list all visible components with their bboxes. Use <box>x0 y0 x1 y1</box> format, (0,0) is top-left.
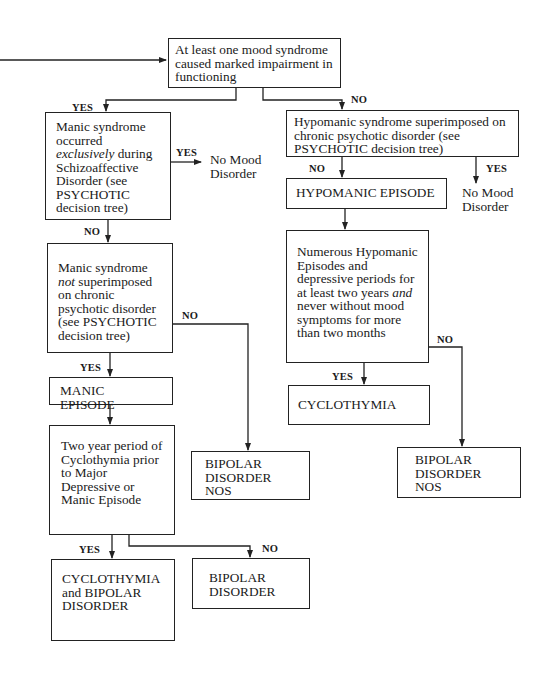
label-no-not-superimposed: NO <box>182 310 198 321</box>
node-no-mood-1: No Mood Disorder <box>210 153 270 180</box>
node-root-text: At least one mood syndrome caused marked… <box>175 42 333 84</box>
label-yes-exclusive: YES <box>176 147 197 158</box>
label-no-two-year: NO <box>262 543 278 554</box>
node-bipolar-disorder: BIPOLAR DISORDER <box>192 558 310 609</box>
label-yes-hypomanic: YES <box>486 163 507 174</box>
label-yes-not-superimposed: YES <box>80 362 101 373</box>
node-numerous: Numerous Hypomanic Episodes and depressi… <box>286 230 429 363</box>
label-no-exclusive: NO <box>84 226 100 237</box>
node-no-mood-2: No Mood Disorder <box>462 186 522 213</box>
node-bipolar-nos-right: BIPOLAR DISORDER NOS <box>397 447 521 498</box>
node-root: At least one mood syndrome caused marked… <box>168 38 341 88</box>
node-manic-not-superimposed: Manic syndrome not superimposed on chron… <box>47 243 173 353</box>
node-manic-exclusive: Manic syndrome occurred exclusively duri… <box>45 112 171 220</box>
label-yes-two-year: YES <box>79 544 100 555</box>
node-two-year: Two year period of Cyclothymia prior to … <box>49 425 175 535</box>
label-no-root: NO <box>351 94 367 105</box>
label-no-numerous: NO <box>437 334 453 345</box>
node-hypomanic-episode: HYPOMANIC EPISODE <box>286 178 447 209</box>
node-manic-episode: MANIC EPISODE <box>49 377 173 405</box>
label-no-hypomanic: NO <box>309 163 325 174</box>
node-bipolar-nos-left: BIPOLAR DISORDER NOS <box>191 451 310 500</box>
node-cyclothymia-and-bipolar: CYCLOTHYMIA and BIPOLAR DISORDER <box>51 559 175 641</box>
node-hypomanic-superimposed: Hypomanic syndrome superimposed on chron… <box>286 110 519 157</box>
node-cyclothymia: CYCLOTHYMIA <box>288 385 430 425</box>
label-yes-numerous: YES <box>332 371 353 382</box>
